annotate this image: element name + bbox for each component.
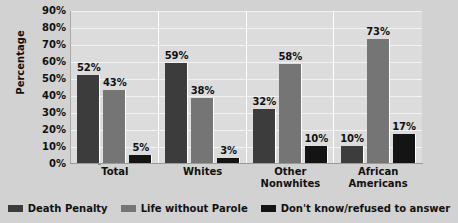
legend-item[interactable]: Death Penalty [8, 203, 108, 214]
y-axis-tick-mark [98, 164, 101, 165]
bar-value-label: 5% [132, 142, 149, 154]
bar-value-label: 32% [252, 96, 276, 108]
bar-group-bars: 59%38%3% [159, 11, 247, 163]
bar-value-label: 38% [191, 85, 215, 97]
bar-chart: Percentage 90%80%70%60%50%40%30%20%10%0%… [0, 0, 458, 223]
bar-value-label: 10% [340, 133, 364, 145]
chart-legend: Death PenaltyLife without ParoleDon't kn… [0, 203, 458, 214]
bar[interactable] [393, 134, 416, 163]
legend-label: Don't know/refused to answer [281, 203, 451, 214]
legend-label: Life without Parole [141, 203, 248, 214]
x-axis-category-label: Whites [159, 166, 247, 190]
bar-item[interactable]: 52% [77, 11, 100, 163]
bar-value-label: 17% [392, 121, 416, 133]
bar[interactable] [103, 90, 126, 163]
bar-value-label: 52% [77, 62, 101, 74]
bar-item[interactable]: 3% [217, 11, 240, 163]
y-axis-tick-label: 50% [30, 73, 66, 84]
bar-item[interactable]: 73% [367, 11, 390, 163]
x-axis-category-line: Americans [334, 178, 422, 190]
bar-item[interactable]: 5% [129, 11, 152, 163]
bar-group-bars: 32%58%10% [247, 11, 335, 163]
legend-item[interactable]: Life without Parole [121, 203, 248, 214]
legend-swatch [261, 205, 276, 212]
x-axis-line [70, 163, 423, 164]
y-axis-tick-label: 70% [30, 39, 66, 50]
bar-item[interactable]: 43% [103, 11, 126, 163]
x-axis-category-label: Total [71, 166, 159, 190]
legend-item[interactable]: Don't know/refused to answer [261, 203, 451, 214]
bar-value-label: 73% [366, 26, 390, 38]
y-axis-tick-label: 10% [30, 141, 66, 152]
bar-item[interactable]: 17% [393, 11, 416, 163]
x-axis-category-label: OtherNonwhites [247, 166, 335, 190]
x-axis-category-line: Total [71, 166, 159, 178]
bar-group: 52%43%5% [71, 11, 159, 163]
x-axis-category-line: Nonwhites [247, 178, 335, 190]
y-axis-tick-label: 80% [30, 22, 66, 33]
bar[interactable] [191, 98, 214, 163]
y-axis-tick-label: 30% [30, 107, 66, 118]
y-axis-ticks: 90%80%70%60%50%40%30%20%10%0% [30, 11, 66, 168]
bar-item[interactable]: 38% [191, 11, 214, 163]
bar-group-bars: 52%43%5% [71, 11, 159, 163]
y-axis-title: Percentage [15, 0, 26, 128]
x-axis-category-label: AfricanAmericans [334, 166, 422, 190]
bar[interactable] [305, 146, 328, 163]
x-axis-category-line: Whites [159, 166, 247, 178]
bar-groups: 52%43%5%59%38%3%32%58%10%10%73%17% [71, 11, 422, 163]
bar-group-bars: 10%73%17% [334, 11, 422, 163]
bar[interactable] [129, 155, 152, 164]
bar[interactable] [165, 63, 188, 163]
x-axis-category-line: African [334, 166, 422, 178]
bar[interactable] [253, 109, 276, 163]
legend-swatch [121, 205, 136, 212]
bar[interactable] [279, 64, 302, 163]
bar-item[interactable]: 58% [279, 11, 302, 163]
y-axis-tick-label: 20% [30, 124, 66, 135]
y-axis-tick-label: 40% [30, 90, 66, 101]
bar-item[interactable]: 10% [341, 11, 364, 163]
bar-item[interactable]: 59% [165, 11, 188, 163]
bar-group: 10%73%17% [334, 11, 422, 163]
bar-group: 32%58%10% [247, 11, 335, 163]
x-axis-category-line: Other [247, 166, 335, 178]
x-axis-labels: TotalWhitesOtherNonwhitesAfricanAmerican… [71, 166, 422, 190]
y-axis-tick-label: 90% [30, 5, 66, 16]
bar-item[interactable]: 32% [253, 11, 276, 163]
bar[interactable] [341, 146, 364, 163]
y-axis-tick-label: 0% [30, 158, 66, 169]
bar-item[interactable]: 10% [305, 11, 328, 163]
bar-value-label: 43% [103, 77, 127, 89]
y-axis-tick-label: 60% [30, 56, 66, 67]
bar-group: 59%38%3% [159, 11, 247, 163]
bar-value-label: 58% [278, 51, 302, 63]
bar[interactable] [367, 39, 390, 163]
legend-swatch [8, 205, 23, 212]
bar[interactable] [77, 75, 100, 163]
bar-value-label: 3% [220, 145, 237, 157]
legend-label: Death Penalty [28, 203, 108, 214]
bar-value-label: 10% [304, 133, 328, 145]
bar[interactable] [217, 158, 240, 163]
bar-value-label: 59% [165, 50, 189, 62]
